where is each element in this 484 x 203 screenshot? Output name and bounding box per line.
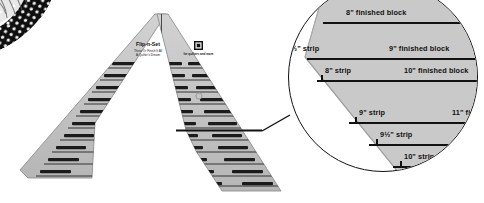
brand-tagline: Three Or Finish It All (134, 49, 163, 53)
new-badge-icon (194, 41, 203, 50)
screenshot-stage: Flip-n-Set Three Or Finish It All A Quil… (0, 0, 484, 203)
mag-label-strip-4: 10" strip (404, 153, 434, 160)
brand-sub-tagline: A Quilter's Dream (136, 53, 161, 57)
mag-label-block-3: 11" fi (452, 109, 470, 116)
brand-name: Flip-n-Set (136, 41, 160, 47)
mag-label-block-0: 8" finished block (346, 9, 406, 16)
mag-label-strip-3: 9½" strip (380, 131, 412, 138)
ruler-right-arm[interactable] (150, 12, 294, 196)
mag-label-block-1: 9" finished block (389, 45, 449, 52)
mag-label-strip-1: 8" strip (325, 67, 351, 74)
detail-magnifier[interactable]: 8" finished block 9" finished block 10" … (288, 0, 478, 172)
badge-sub-label: for quilters and more (183, 52, 213, 56)
mag-label-strip-0: ½" strip (291, 45, 319, 52)
mag-label-block-2: 10" finished block (404, 67, 468, 74)
mag-label-strip-2: 9" strip (359, 109, 385, 116)
magnifier-content: 8" finished block 9" finished block 10" … (289, 0, 478, 172)
ruler-left-arm[interactable] (20, 12, 176, 196)
magnified-ruler-surface (289, 0, 478, 172)
